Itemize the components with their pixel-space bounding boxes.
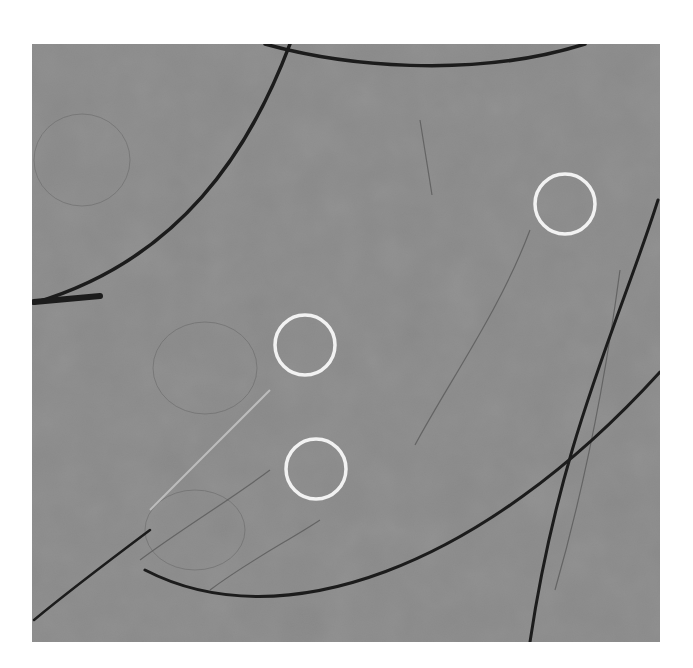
micrograph-image bbox=[32, 44, 660, 642]
